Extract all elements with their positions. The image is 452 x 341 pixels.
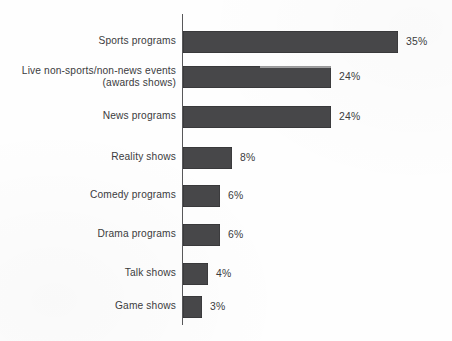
category-label: Reality shows [0, 151, 176, 163]
category-label: Comedy programs [0, 189, 176, 201]
category-label: Sports programs [0, 35, 176, 47]
plot-area: Sports programs 35% Live non-sports/non-… [0, 0, 452, 341]
bar-segment [183, 185, 220, 207]
value-label: 35% [406, 36, 427, 48]
category-label: News programs [0, 110, 176, 122]
category-label: Live non-sports/non-news events (awards … [0, 65, 176, 90]
value-label: 6% [228, 229, 243, 241]
bar-chart: Sports programs 35% Live non-sports/non-… [0, 0, 452, 341]
category-label: Drama programs [0, 228, 176, 240]
bar-segment [183, 31, 398, 53]
bar-segment [183, 224, 220, 246]
value-label: 6% [228, 190, 243, 202]
bar-segment [183, 296, 202, 318]
value-label: 24% [339, 111, 360, 123]
bar-segment [183, 106, 331, 128]
bar-segment [183, 147, 232, 169]
bar-segment [183, 263, 208, 285]
category-label: Game shows [0, 300, 176, 312]
bar-segment [183, 66, 331, 88]
value-label: 24% [339, 71, 360, 83]
value-label: 8% [240, 152, 255, 164]
value-label: 4% [216, 268, 231, 280]
category-label: Talk shows [0, 267, 176, 279]
value-label: 3% [210, 301, 225, 313]
